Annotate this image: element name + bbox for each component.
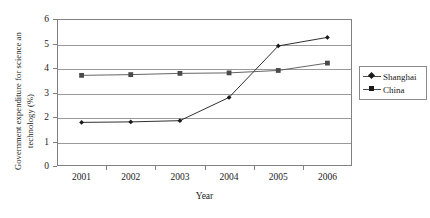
data-point [227,71,232,76]
data-point [178,71,183,76]
chart-figure: Government expenditure for science an te… [0,0,430,218]
data-point [325,61,330,66]
data-point [79,73,84,78]
legend: Shanghai China [359,66,427,100]
y-axis-title-line2: technology (%) [25,94,35,148]
legend-marker-square-icon [363,84,381,95]
x-axis-title: Year [57,191,352,201]
series-line-china [82,63,328,75]
data-point [128,120,133,125]
x-tick-mark [205,166,206,170]
y-tick-label: 5 [35,39,49,49]
data-point [178,118,183,123]
legend-label-shanghai: Shanghai [381,72,417,82]
x-tick-mark [254,166,255,170]
y-axis-title-line1: Government expenditure for science an [13,32,23,170]
data-point [128,72,133,77]
data-series-layer [57,19,352,166]
x-tick-label: 2005 [258,172,298,182]
x-tick-label: 2003 [160,172,200,182]
y-tick-label: 4 [35,63,49,73]
y-tick-label: 1 [35,137,49,147]
legend-item-china[interactable]: China [362,83,424,96]
data-point [79,120,84,125]
x-tick-label: 2001 [62,172,102,182]
y-tick-label: 3 [35,88,49,98]
x-tick-mark [303,166,304,170]
x-tick-label: 2006 [307,172,347,182]
data-point [276,68,281,73]
y-axis-title: Government expenditure for science an te… [0,0,36,180]
y-tick-label: 6 [35,14,49,24]
legend-item-shanghai[interactable]: Shanghai [362,70,424,83]
x-tick-label: 2004 [209,172,249,182]
y-tick-mark [53,166,57,167]
x-tick-mark [106,166,107,170]
x-tick-label: 2002 [111,172,151,182]
legend-marker-diamond-icon [363,71,381,82]
legend-label-china: China [381,85,405,95]
y-tick-label: 2 [35,112,49,122]
y-tick-label: 0 [35,161,49,171]
data-point [325,35,330,40]
x-tick-mark [155,166,156,170]
series-line-shanghai [82,37,328,122]
